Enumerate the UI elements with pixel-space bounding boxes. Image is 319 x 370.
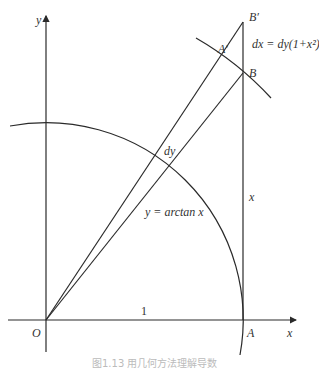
arctan-diagram: y x O A B B′ A′ 1 dy x y = arctan x dx =… [0,0,319,370]
dy-label: dy [164,144,176,158]
ray-OB [46,73,243,320]
y-axis-label: y [35,13,42,27]
unit-length-label: 1 [141,304,147,318]
point-B-prime-label: B′ [249,10,259,24]
figure-caption: 图1.13 用几何方法理解导数 [92,357,217,369]
origin-label: O [32,326,41,340]
x-segment-label: x [248,190,255,204]
curve-label: y = arctan x [144,205,204,219]
point-B-label: B [249,66,257,80]
ray-OB-prime [46,22,243,320]
dx-relation-label: dx = dy(1+x²) [252,37,319,51]
point-A-prime-label: A′ [217,42,228,56]
point-A-label: A [246,326,255,340]
x-axis-label: x [286,326,293,340]
